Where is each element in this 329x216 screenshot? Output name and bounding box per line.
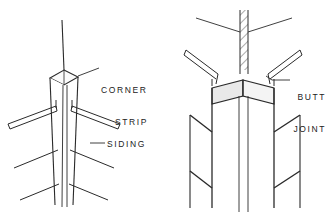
framing-section-hatched xyxy=(240,10,248,70)
butt-siding-right-end-cap xyxy=(300,50,302,55)
butt-lower-course-2-right xyxy=(274,171,300,188)
technical-illustration: CORNER STRIP SIDING BUTT JOINT xyxy=(0,0,329,216)
label-butt-joint-line2: JOINT xyxy=(268,124,326,135)
siding-course-1-left-end-cap xyxy=(8,124,10,129)
siding-course-3-right xyxy=(69,184,108,200)
butt-lower-course-2-left xyxy=(190,171,212,188)
label-corner-strip-line2: STRIP xyxy=(101,117,148,128)
butt-lower-course-1-left xyxy=(190,115,212,132)
corner-strip-leader-line xyxy=(78,68,99,76)
sheathing-wing-left xyxy=(196,18,240,32)
label-corner-strip-line1: CORNER xyxy=(101,85,148,96)
label-butt-joint-line1: BUTT xyxy=(268,92,326,103)
butt-siding-left-top xyxy=(186,50,218,74)
sheathing-wing-right xyxy=(248,18,292,32)
siding-course-1-left-bottom xyxy=(10,111,57,129)
wall-corner-line xyxy=(62,20,64,70)
butt-siding-left-bottom xyxy=(184,55,216,79)
butt-siding-left-riser xyxy=(216,74,218,84)
label-butt-joint: BUTT JOINT xyxy=(268,71,326,155)
label-siding: SIDING xyxy=(107,139,146,150)
siding-course-2-right xyxy=(70,150,114,168)
butt-siding-left-end-cap xyxy=(184,50,186,55)
corner-post-top-left-face xyxy=(212,80,243,104)
label-corner-strip: CORNER STRIP xyxy=(101,64,148,148)
siding-course-1-left-top xyxy=(8,106,56,124)
